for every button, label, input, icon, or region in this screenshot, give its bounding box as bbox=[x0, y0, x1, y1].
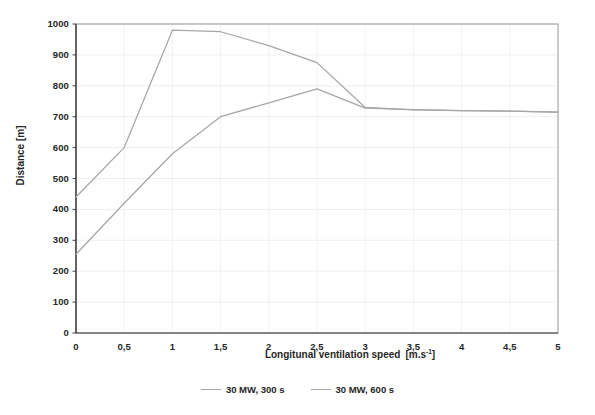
x-axis-title-text: Longitunal ventilation speed bbox=[265, 349, 401, 360]
y-axis-tick-label: 400 bbox=[14, 203, 69, 214]
x-axis-unit-open: [m.s bbox=[405, 349, 426, 360]
y-axis-title: Distance [m] bbox=[15, 116, 26, 196]
legend-label-series-2: 30 MW, 600 s bbox=[336, 384, 395, 395]
x-axis-title: Longitunal ventilation speed[m.s-1] bbox=[150, 349, 550, 360]
legend-line-swatch-series-1 bbox=[201, 389, 221, 390]
legend-item-series-1: 30 MW, 300 s bbox=[201, 384, 285, 395]
legend-label-series-1: 30 MW, 300 s bbox=[226, 384, 285, 395]
y-axis-tick-label: 800 bbox=[14, 80, 69, 91]
y-axis-tick-label: 0 bbox=[14, 327, 69, 338]
legend-line-swatch-series-2 bbox=[311, 389, 331, 390]
chart-legend: 30 MW, 300 s 30 MW, 600 s bbox=[0, 384, 595, 395]
y-axis-tick-label: 200 bbox=[14, 265, 69, 276]
legend-item-series-2: 30 MW, 600 s bbox=[311, 384, 395, 395]
y-axis-tick-label: 300 bbox=[14, 234, 69, 245]
x-axis-unit-close: ] bbox=[432, 349, 435, 360]
y-axis-tick-label: 100 bbox=[14, 296, 69, 307]
y-axis-tick-label: 1000 bbox=[14, 18, 69, 29]
chart-figure: 0100200300400500600700800900100000,511,5… bbox=[0, 0, 595, 415]
y-axis-tick-label: 900 bbox=[14, 49, 69, 60]
